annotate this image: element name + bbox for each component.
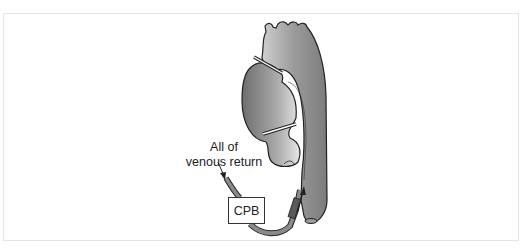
venous-label-line1: All of [184, 140, 264, 155]
cpb-box: CPB [228, 197, 265, 224]
cpb-diagram [0, 0, 530, 251]
venous-return-label: All of venous return [184, 140, 264, 170]
venous-label-line2: venous return [184, 155, 264, 170]
venous-cannula [226, 178, 240, 198]
